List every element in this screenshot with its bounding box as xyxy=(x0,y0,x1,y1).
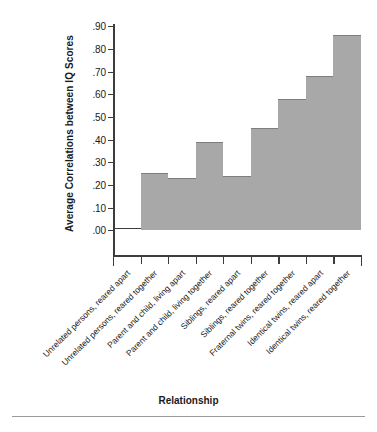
bar[interactable] xyxy=(141,173,169,230)
bar[interactable] xyxy=(306,76,334,230)
y-tick-label: .40 xyxy=(92,135,106,146)
bar[interactable] xyxy=(278,99,306,230)
y-tick: .60 xyxy=(92,85,113,103)
x-tick-mark xyxy=(196,256,197,264)
x-axis-title: Relationship xyxy=(0,395,377,406)
y-tick-label: .30 xyxy=(92,157,106,168)
x-tick-mark xyxy=(113,256,114,266)
y-tick-label: .50 xyxy=(92,112,106,123)
y-tick: .20 xyxy=(92,176,113,194)
y-tick: .40 xyxy=(92,130,113,148)
bar[interactable] xyxy=(113,228,141,230)
x-tick-mark xyxy=(168,256,169,264)
bar[interactable] xyxy=(333,35,361,230)
x-tick-mark xyxy=(333,256,334,264)
bar[interactable] xyxy=(223,176,251,230)
bar[interactable] xyxy=(251,128,279,230)
y-tick-label: .10 xyxy=(92,203,106,214)
x-tick-mark xyxy=(141,256,142,264)
figure: Average Correlations between IQ Scores .… xyxy=(0,0,377,432)
y-tick-label: .80 xyxy=(92,44,106,55)
y-axis-title: Average Correlations between IQ Scores xyxy=(64,19,75,249)
x-axis-line xyxy=(113,255,362,257)
y-tick-label: .70 xyxy=(92,67,106,78)
y-tick: .80 xyxy=(92,40,113,58)
bar[interactable] xyxy=(196,142,224,230)
y-tick-label: .60 xyxy=(92,89,106,100)
y-tick: .10 xyxy=(92,198,113,216)
y-tick-label: .90 xyxy=(92,21,106,32)
y-tick-mark xyxy=(108,230,113,231)
bottom-divider xyxy=(12,416,365,417)
y-tick: .30 xyxy=(92,153,113,171)
y-tick: .70 xyxy=(92,62,113,80)
x-tick-mark xyxy=(251,256,252,264)
y-tick: .90 xyxy=(92,17,113,35)
bar-series xyxy=(113,26,361,230)
plot-area: .90.80.70.60.50.40.30.20.10.00 xyxy=(113,26,361,230)
y-tick: .50 xyxy=(92,108,113,126)
x-tick-mark xyxy=(306,256,307,264)
y-tick-label: .20 xyxy=(92,180,106,191)
y-tick: .00 xyxy=(92,221,113,239)
bar[interactable] xyxy=(168,178,196,230)
x-tick-mark xyxy=(361,256,362,266)
x-tick-mark xyxy=(223,256,224,264)
y-tick-label: .00 xyxy=(92,225,106,236)
x-tick-mark xyxy=(278,256,279,264)
